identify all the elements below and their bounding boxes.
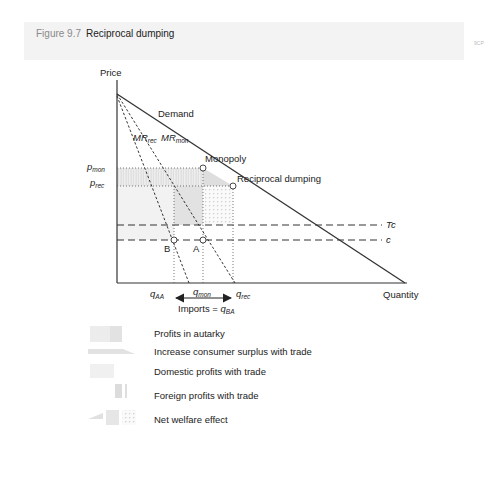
demand-label: Demand	[158, 108, 194, 119]
c-label: c	[386, 234, 391, 245]
legend-item-foreign-profits: Foreign profits with trade	[154, 390, 259, 401]
net-welfare-area	[203, 186, 233, 225]
reciprocal-point	[230, 183, 236, 189]
foreign-profits-area	[174, 186, 203, 225]
imports-label: Imports = qBA	[178, 303, 234, 315]
legend-swatch-profits-autarky	[90, 326, 122, 342]
legend-swatch-consumer-surplus	[88, 349, 135, 354]
consumer-surplus-triangle	[203, 168, 233, 186]
x-axis-label: Quantity	[383, 289, 419, 300]
q-mon-label: qmon	[193, 286, 211, 298]
legend-item-domestic-profits: Domestic profits with trade	[154, 366, 266, 377]
tc-label: Tc	[386, 219, 396, 230]
mr-rec-label: MRrec	[133, 132, 158, 144]
legend-swatch-foreign-profits	[115, 384, 126, 398]
y-axis-label: Price	[100, 67, 122, 78]
monopoly-label: Monopoly	[205, 153, 246, 164]
legend-swatch-domestic-profits	[90, 364, 114, 378]
reciprocal-label: Reciprocal dumping	[237, 173, 321, 184]
q-rec-label: qrec	[236, 288, 251, 300]
legend-swatch-net-welfare	[88, 410, 136, 425]
legend-item-profits-autarky: Profits in autarky	[154, 328, 225, 339]
monopoly-point	[200, 165, 206, 171]
point-b	[171, 237, 177, 243]
point-a-label: A	[193, 243, 200, 254]
mr-mon-label: MRmon	[161, 132, 189, 144]
legend-item-net-welfare: Net welfare effect	[154, 414, 228, 425]
profits-autarky-area	[117, 168, 203, 186]
p-rec-label: prec	[89, 177, 105, 189]
reciprocal-dumping-diagram: Price Quantity Demand MRrec MRmon Monopo…	[0, 0, 491, 488]
legend-item-consumer-surplus: Increase consumer surplus with trade	[154, 346, 312, 357]
point-b-label: B	[164, 243, 170, 254]
domestic-profits-area	[117, 186, 174, 240]
q-aa-label: qAA	[150, 288, 164, 300]
point-a	[200, 237, 206, 243]
p-mon-label: pmon	[86, 161, 105, 173]
